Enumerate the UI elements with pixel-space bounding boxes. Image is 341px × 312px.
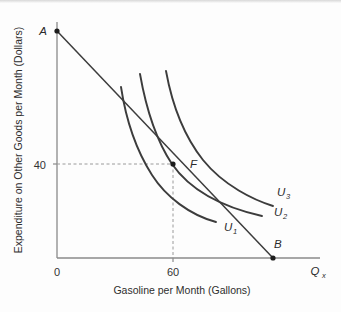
point-marker-f (170, 161, 175, 166)
figure-container: A F B U 1 U 2 U 3 40 0 60 Q x Gasoline p… (0, 0, 341, 312)
curve-label-u1-base: U (224, 221, 233, 233)
indifference-curve-u1 (121, 87, 216, 222)
x-axis-symbol-subscript: x (321, 271, 326, 280)
x-axis-symbol: Q x (311, 265, 326, 280)
point-marker-a (54, 28, 59, 33)
x-axis-symbol-base: Q (311, 265, 320, 277)
curve-label-u2: U 2 (274, 206, 288, 221)
x-tick-label-60: 60 (167, 266, 179, 278)
point-label-f: F (190, 158, 198, 170)
x-axis-title: Gasoline per Month (Gallons) (113, 284, 250, 296)
curve-label-u3-subscript: 3 (286, 192, 291, 201)
curve-label-u3-base: U (277, 186, 286, 198)
curve-label-u3: U 3 (277, 186, 291, 201)
y-tick-label-40: 40 (34, 159, 46, 171)
indifference-curve-chart: A F B U 1 U 2 U 3 40 0 60 Q x Gasoline p… (0, 0, 341, 312)
y-axis-title: Expenditure on Other Goods per Month (Do… (12, 27, 24, 253)
curve-label-u2-base: U (274, 206, 283, 218)
indifference-curve-u2 (140, 74, 262, 216)
top-edge-band (0, 0, 341, 3)
point-label-a: A (38, 25, 47, 37)
curve-label-u2-subscript: 2 (282, 212, 288, 221)
point-label-b: B (274, 238, 282, 250)
budget-line-AB (57, 31, 273, 258)
curve-label-u1-subscript: 1 (233, 227, 237, 236)
indifference-curve-u3 (166, 71, 273, 206)
point-marker-b (270, 255, 275, 260)
curve-label-u1: U 1 (224, 221, 237, 236)
origin-label: 0 (54, 266, 60, 278)
